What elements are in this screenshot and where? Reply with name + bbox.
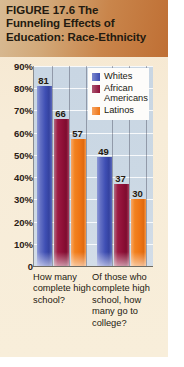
legend: Whites African Americans Latinos bbox=[88, 68, 149, 120]
bar-base-wash bbox=[54, 252, 69, 266]
category-label-2: Of those who complete high school, how m… bbox=[92, 272, 158, 329]
y-tick-label-40: 40% bbox=[2, 172, 33, 183]
bar-value-label: 66 bbox=[49, 108, 73, 119]
bar-value-label: 49 bbox=[92, 146, 116, 157]
y-tick-label-80: 80% bbox=[2, 83, 33, 94]
legend-swatch-whites bbox=[92, 73, 100, 81]
bar-african-americans-group-1 bbox=[54, 119, 69, 266]
bar-base-wash bbox=[37, 252, 52, 266]
bar-separator bbox=[69, 66, 70, 266]
bar-base-wash bbox=[114, 252, 129, 266]
y-axis: 010%20%30%40%50%60%70%80%90% bbox=[0, 0, 33, 367]
bar-value-label: 30 bbox=[126, 188, 150, 199]
bar-latinos-group-2 bbox=[131, 199, 146, 266]
figure-17-6: FIGURE 17.6 The Funneling Effects of Edu… bbox=[0, 0, 184, 367]
legend-item-african-americans: African Americans bbox=[92, 83, 146, 104]
category-label-1: How many complete high school? bbox=[33, 272, 92, 329]
y-tick-label-60: 60% bbox=[2, 127, 33, 138]
bar-value-label: 37 bbox=[109, 173, 133, 184]
legend-label-african-americans: African Americans bbox=[104, 83, 148, 104]
bar-base-wash bbox=[97, 252, 112, 266]
figure-title-line1: The bbox=[78, 4, 98, 16]
bar-base-wash bbox=[71, 252, 86, 266]
bar-value-label: 81 bbox=[32, 75, 56, 86]
category-labels: How many complete high school? Of those … bbox=[33, 272, 163, 329]
y-tick-label-70: 70% bbox=[2, 105, 33, 116]
y-tick-label-20: 20% bbox=[2, 216, 33, 227]
bar-separator bbox=[52, 66, 53, 266]
legend-label-whites: Whites bbox=[104, 71, 132, 82]
x-axis-line bbox=[33, 266, 153, 267]
legend-item-latinos: Latinos bbox=[92, 105, 146, 116]
legend-label-latinos: Latinos bbox=[104, 105, 134, 116]
bar-fill bbox=[54, 119, 69, 266]
bar-fill bbox=[71, 139, 86, 266]
y-tick-label-30: 30% bbox=[2, 194, 33, 205]
legend-item-whites: Whites bbox=[92, 71, 146, 82]
bar-latinos-group-1 bbox=[71, 139, 86, 266]
legend-swatch-latinos bbox=[92, 107, 100, 115]
legend-swatch-african-americans bbox=[92, 85, 100, 93]
y-tick-label-50: 50% bbox=[2, 149, 33, 160]
y-tick-label-10: 10% bbox=[2, 238, 33, 249]
y-tick-label-90: 90% bbox=[2, 61, 33, 72]
bar-separator bbox=[86, 66, 87, 266]
y-tick-label-0: 0 bbox=[2, 261, 33, 272]
bar-base-wash bbox=[131, 252, 146, 266]
bar-value-label: 57 bbox=[66, 128, 90, 139]
